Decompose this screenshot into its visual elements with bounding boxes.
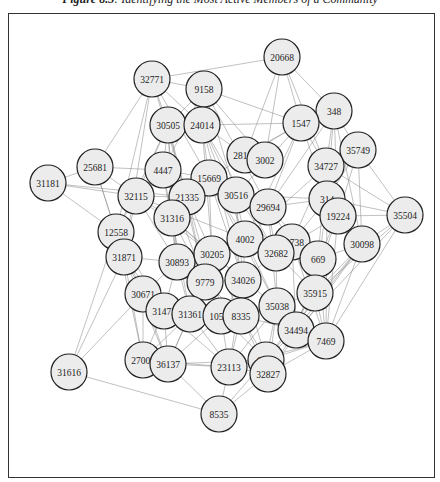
graph-node-669: 669 <box>300 241 336 277</box>
node-label: 7469 <box>317 337 336 347</box>
node-label: 20668 <box>270 53 294 63</box>
node-label: 32827 <box>256 370 280 380</box>
graph-node-3002: 3002 <box>247 142 283 178</box>
node-label: 9779 <box>196 278 215 288</box>
node-label: 31871 <box>112 253 136 263</box>
graph-node-30098: 30098 <box>344 226 380 262</box>
node-label: 12558 <box>104 228 128 238</box>
node-label: 34727 <box>314 162 338 172</box>
graph-node-32115: 32115 <box>118 178 154 214</box>
graph-node-36137: 36137 <box>150 346 186 382</box>
node-label: 35915 <box>303 289 327 299</box>
node-label: 32682 <box>264 249 288 259</box>
node-label: 36137 <box>156 360 180 370</box>
graph-node-34026: 34026 <box>225 262 261 298</box>
edge <box>69 257 124 372</box>
node-label: 23113 <box>217 363 241 373</box>
node-label: 31181 <box>36 179 60 189</box>
node-label: 35749 <box>346 146 370 156</box>
node-label: 34026 <box>231 276 255 286</box>
graph-node-24014: 24014 <box>184 107 220 143</box>
node-label: 30893 <box>165 258 189 268</box>
graph-node-348: 348 <box>316 93 352 129</box>
graph-node-7469: 7469 <box>308 323 344 359</box>
graph-node-23113: 23113 <box>211 349 247 385</box>
graph-node-31316: 31316 <box>154 200 190 236</box>
node-label: 30505 <box>156 121 180 131</box>
graph-node-29694: 29694 <box>250 189 286 225</box>
node-label: 8335 <box>232 312 251 322</box>
graph-node-35504: 35504 <box>387 197 423 233</box>
graph-node-32771: 32771 <box>134 61 170 97</box>
node-layer: 2066832771915834815473050524014357492568… <box>30 39 423 432</box>
graph-node-32827: 32827 <box>250 356 286 392</box>
node-label: 24014 <box>190 121 214 131</box>
node-label: 8535 <box>210 410 229 420</box>
node-label: 4447 <box>154 166 173 176</box>
graph-node-31871: 31871 <box>106 239 142 275</box>
node-label: 25681 <box>83 163 107 173</box>
node-label: 32771 <box>140 75 164 85</box>
graph-node-9779: 9779 <box>187 264 223 300</box>
node-label: 32115 <box>124 192 148 202</box>
network-graph: 2066832771915834815473050524014357492568… <box>0 0 440 482</box>
node-label: 35504 <box>393 211 417 221</box>
node-label: 29694 <box>256 203 280 213</box>
graph-node-9158: 9158 <box>186 71 222 107</box>
graph-node-32682: 32682 <box>258 235 294 271</box>
graph-node-1547: 1547 <box>283 105 319 141</box>
node-label: 348 <box>327 107 342 117</box>
node-label: 31361 <box>178 310 202 320</box>
graph-node-8535: 8535 <box>201 396 237 432</box>
graph-node-31616: 31616 <box>51 354 87 390</box>
node-label: 30205 <box>200 250 224 260</box>
node-label: 19224 <box>326 212 350 222</box>
graph-node-30505: 30505 <box>150 107 186 143</box>
node-label: 31616 <box>57 368 81 378</box>
node-label: 31316 <box>160 214 184 224</box>
node-label: 669 <box>311 255 326 265</box>
graph-node-31181: 31181 <box>30 165 66 201</box>
graph-node-8335: 8335 <box>223 298 259 334</box>
node-label: 9158 <box>195 85 214 95</box>
graph-node-35915: 35915 <box>297 275 333 311</box>
node-label: 30098 <box>350 240 374 250</box>
graph-node-25681: 25681 <box>77 149 113 185</box>
node-label: 34494 <box>284 326 308 336</box>
graph-node-19224: 19224 <box>320 198 356 234</box>
graph-node-20668: 20668 <box>264 39 300 75</box>
graph-node-35749: 35749 <box>340 132 376 168</box>
node-label: 15669 <box>197 174 221 184</box>
graph-node-30516: 30516 <box>218 177 254 213</box>
node-label: 3002 <box>256 156 275 166</box>
node-label: 35038 <box>265 302 289 312</box>
node-label: 30516 <box>224 191 248 201</box>
node-label: 1547 <box>292 119 311 129</box>
graph-node-34727: 34727 <box>308 148 344 184</box>
node-label: 4002 <box>236 235 255 245</box>
